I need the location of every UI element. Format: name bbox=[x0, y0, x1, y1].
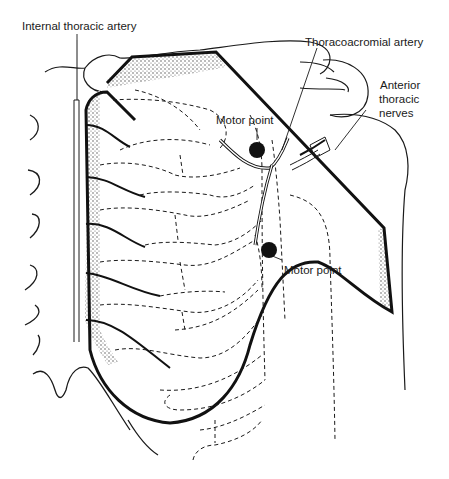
motor-point-upper-dot bbox=[249, 142, 265, 158]
label-thoracoacromial-artery: Thoracoacromial artery bbox=[305, 36, 423, 49]
label-motor-point-lower: Motor point bbox=[284, 264, 342, 277]
internal-thoracic-artery bbox=[74, 40, 79, 342]
label-internal-thoracic-artery: Internal thoracic artery bbox=[22, 20, 136, 33]
label-anterior-thoracic-nerves-1: Anterior bbox=[380, 79, 420, 92]
label-anterior-thoracic-nerves-3: nerves bbox=[379, 107, 414, 120]
label-motor-point-upper: Motor point bbox=[216, 114, 274, 127]
label-anterior-thoracic-nerves-2: thoracic bbox=[379, 93, 419, 106]
anatomy-diagram bbox=[0, 0, 449, 479]
motor-point-lower-dot bbox=[261, 242, 277, 258]
pectoralis-major-outline bbox=[86, 52, 392, 423]
thoracoacromial-pedicle bbox=[220, 138, 325, 245]
